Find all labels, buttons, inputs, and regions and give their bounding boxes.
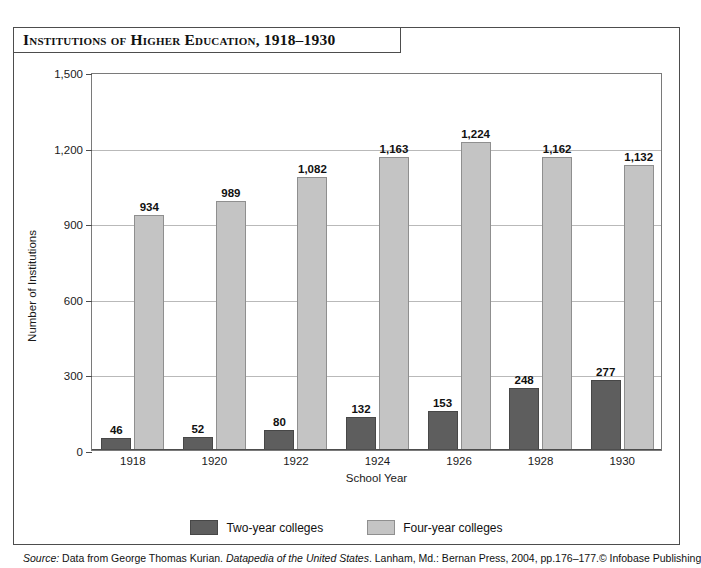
y-axis-tick-label: 1,200 — [54, 144, 92, 156]
bar-four-year[interactable]: 1,224 — [461, 142, 491, 450]
legend-label: Two-year colleges — [226, 521, 323, 535]
legend-label: Four-year colleges — [403, 521, 502, 535]
bar-four-year[interactable]: 1,163 — [379, 157, 409, 450]
chart-canvas: Number of Institutions 03006009001,2001,… — [14, 54, 679, 517]
bar-group: 1321,1631924 — [337, 74, 419, 450]
source-note: Source: Data from George Thomas Kurian. … — [23, 552, 599, 564]
source-publication-title: Datapedia of the United States — [226, 552, 369, 564]
bar-value-label: 248 — [515, 374, 534, 386]
x-axis-line — [92, 449, 661, 451]
source-lead: Source: — [23, 552, 59, 564]
legend-item-four-year[interactable]: Four-year colleges — [367, 520, 502, 535]
bar-two-year[interactable]: 248 — [509, 388, 539, 450]
source-post-title: . Lanham, Md.: Bernan Press, 2004, pp.17… — [369, 552, 599, 564]
bar-group: 1531,2241926 — [418, 74, 500, 450]
bar-two-year[interactable]: 132 — [346, 417, 376, 450]
x-axis-tick-label: 1922 — [283, 455, 309, 467]
y-axis-label: Number of Institutions — [26, 230, 38, 342]
y-axis-tick-label: 0 — [77, 446, 92, 458]
x-axis-tick-label: 1920 — [202, 455, 228, 467]
x-axis-tick-label: 1918 — [120, 455, 146, 467]
legend-swatch — [367, 520, 395, 535]
x-axis-tick-label: 1928 — [528, 455, 554, 467]
bar-group: 801,0821922 — [255, 74, 337, 450]
page-title: Institutions of Higher Education, 1918–1… — [14, 31, 335, 49]
bar-four-year[interactable]: 1,162 — [542, 157, 572, 450]
page-header-remnant — [430, 0, 610, 9]
bar-value-label: 132 — [351, 403, 370, 415]
bar-value-label: 1,163 — [380, 143, 409, 155]
bar-four-year[interactable]: 1,082 — [297, 177, 327, 450]
x-axis-label: School Year — [91, 472, 662, 484]
x-axis-tick-label: 1930 — [609, 455, 635, 467]
bar-value-label: 46 — [110, 424, 123, 436]
legend-swatch — [190, 520, 218, 535]
source-pre-title: Data from George Thomas Kurian. — [59, 552, 226, 564]
bar-value-label: 52 — [191, 423, 204, 435]
x-axis-tick-label: 1926 — [446, 455, 472, 467]
y-axis-tick-label: 1,500 — [54, 68, 92, 80]
bar-four-year[interactable]: 934 — [134, 215, 164, 450]
bar-two-year[interactable]: 153 — [428, 411, 458, 450]
bar-group: 2771,1321930 — [581, 74, 663, 450]
y-axis-tick-label: 300 — [64, 370, 92, 382]
bar-group: 529891920 — [174, 74, 256, 450]
copyright-notice: © Infobase Publishing — [599, 552, 701, 564]
figure-frame: Institutions of Higher Education, 1918–1… — [13, 27, 680, 545]
footer-divider — [14, 544, 679, 545]
bar-four-year[interactable]: 989 — [216, 201, 246, 450]
bar-two-year[interactable]: 277 — [591, 380, 621, 450]
chart-legend: Two-year collegesFour-year colleges — [14, 520, 679, 535]
bar-group: 2481,1621928 — [500, 74, 582, 450]
figure-footer: Source: Data from George Thomas Kurian. … — [14, 546, 679, 568]
y-axis-tick-label: 900 — [64, 219, 92, 231]
bar-four-year[interactable]: 1,132 — [624, 165, 654, 450]
plot-area: 03006009001,2001,500 4693419185298919208… — [91, 73, 662, 451]
bar-two-year[interactable]: 80 — [264, 430, 294, 450]
figure-title-box: Institutions of Higher Education, 1918–1… — [13, 27, 401, 53]
bar-value-label: 277 — [596, 366, 615, 378]
bar-value-label: 153 — [433, 397, 452, 409]
bar-value-label: 80 — [273, 416, 286, 428]
bar-value-label: 1,162 — [543, 143, 572, 155]
bar-value-label: 1,132 — [624, 151, 653, 163]
y-axis-tick-label: 600 — [64, 295, 92, 307]
bar-value-label: 1,224 — [461, 128, 490, 140]
bar-value-label: 1,082 — [298, 163, 327, 175]
bar-value-label: 989 — [221, 187, 240, 199]
bar-group: 469341918 — [92, 74, 174, 450]
bar-value-label: 934 — [140, 201, 159, 213]
legend-item-two-year[interactable]: Two-year colleges — [190, 520, 323, 535]
x-axis-tick-label: 1924 — [365, 455, 391, 467]
